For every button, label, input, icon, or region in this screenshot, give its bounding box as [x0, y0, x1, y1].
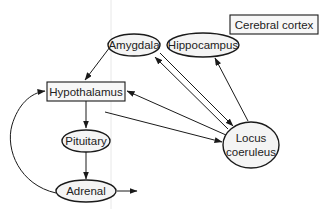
node-label-amygdala: Amygdala — [108, 39, 160, 51]
node-label-adrenal: Adrenal — [66, 185, 106, 197]
edges — [10, 47, 248, 193]
edge-adrenal-to-hypothalamus — [10, 91, 56, 193]
edge-hypothalamus-to-locus — [105, 112, 222, 142]
edge-locus-to-amygdala — [155, 57, 228, 129]
node-amygdala: Amygdala — [108, 34, 160, 56]
node-label-pituitary: Pituitary — [65, 135, 107, 147]
node-label-hippocampus: Hippocampus — [168, 39, 239, 51]
edge-amygdala-to-hypothalamus — [85, 47, 110, 80]
node-label-coeruleus: coeruleus — [226, 146, 276, 158]
node-locus-coeruleus: Locus coeruleus — [223, 122, 279, 168]
edge-locus-to-hippocampus — [215, 58, 248, 121]
node-label-hypothalamus: Hypothalamus — [49, 86, 123, 98]
stress-pathway-diagram: Cerebral cortex Amygdala Hippocampus Hyp… — [0, 0, 322, 209]
node-hippocampus: Hippocampus — [167, 33, 239, 57]
edge-amygdala-to-locus — [160, 53, 233, 126]
node-hypothalamus: Hypothalamus — [47, 82, 125, 101]
node-label-locus: Locus — [236, 132, 267, 144]
node-pituitary: Pituitary — [62, 130, 110, 152]
node-label-cerebral-cortex: Cerebral cortex — [235, 19, 314, 31]
node-adrenal: Adrenal — [56, 180, 116, 202]
node-cerebral-cortex: Cerebral cortex — [230, 15, 318, 34]
